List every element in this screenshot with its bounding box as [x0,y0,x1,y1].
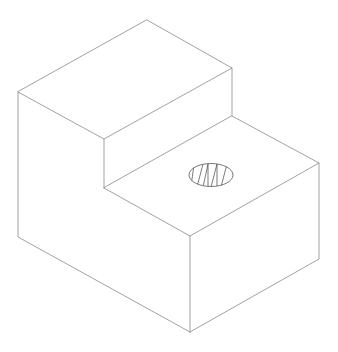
upper-top-face [18,20,232,139]
isometric-drawing [0,0,338,352]
right-face-outline [190,163,319,332]
left-face-outline [18,92,190,332]
hole [189,164,233,188]
